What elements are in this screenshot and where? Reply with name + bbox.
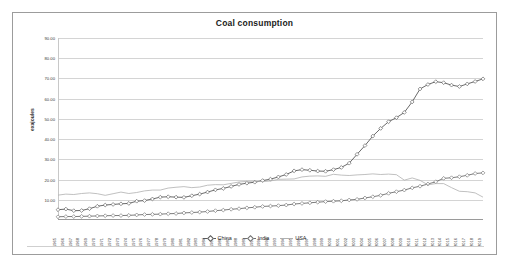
- data-point-marker: [174, 212, 178, 216]
- legend-marker-icon: [243, 236, 256, 241]
- series-layer: [58, 38, 483, 220]
- data-point-marker: [182, 195, 186, 199]
- data-point-marker: [190, 194, 194, 198]
- data-point-marker: [88, 207, 92, 211]
- data-point-marker: [300, 168, 304, 172]
- legend-label: China: [218, 235, 232, 241]
- data-point-marker: [135, 213, 139, 217]
- data-point-marker: [339, 199, 343, 203]
- data-point-marker: [316, 200, 320, 204]
- x-axis-tick-labels: 1965196619671968196919701971197219731974…: [58, 221, 483, 247]
- data-point-marker: [166, 212, 170, 216]
- legend-item-usa[interactable]: USA: [280, 235, 306, 241]
- data-point-marker: [166, 195, 170, 199]
- data-point-marker: [418, 184, 422, 188]
- data-point-marker: [442, 81, 446, 85]
- data-point-marker: [269, 204, 273, 208]
- y-axis-tick-label: 60.00: [45, 96, 55, 101]
- data-point-marker: [103, 203, 107, 207]
- legend-item-china[interactable]: China: [203, 235, 232, 241]
- data-point-marker: [229, 207, 233, 211]
- series-line: [58, 79, 483, 211]
- y-axis-tick-label: 70.00: [45, 76, 55, 81]
- data-point-marker: [103, 214, 107, 218]
- y-axis-tick-label: 80.00: [45, 56, 55, 61]
- data-point-marker: [198, 192, 202, 196]
- data-point-marker: [64, 207, 68, 211]
- legend-marker-icon: [280, 236, 293, 241]
- data-point-marker: [473, 80, 477, 84]
- data-point-marker: [457, 175, 461, 179]
- data-point-marker: [300, 202, 304, 206]
- data-point-marker: [371, 195, 375, 199]
- data-point-marker: [324, 169, 328, 173]
- data-point-marker: [72, 209, 76, 213]
- data-point-marker: [450, 176, 454, 180]
- data-point-marker: [355, 197, 359, 201]
- data-point-marker: [332, 168, 336, 172]
- data-point-marker: [221, 208, 225, 212]
- data-point-marker: [206, 210, 210, 214]
- data-point-marker: [465, 82, 469, 86]
- data-point-marker: [72, 215, 76, 219]
- data-point-marker: [253, 205, 257, 209]
- data-point-marker: [95, 204, 99, 208]
- data-point-marker: [135, 199, 139, 203]
- data-point-marker: [363, 196, 367, 200]
- y-axis-tick-label: 40.00: [45, 137, 55, 142]
- data-point-marker: [237, 183, 241, 187]
- legend-item-india[interactable]: India: [243, 235, 270, 241]
- chart-legend: ChinaIndiaUSA: [13, 235, 496, 241]
- data-point-marker: [284, 173, 288, 177]
- data-point-marker: [214, 188, 218, 192]
- data-point-marker: [214, 209, 218, 213]
- data-point-marker: [426, 83, 430, 87]
- data-point-marker: [119, 202, 123, 206]
- chart-title: Coal consumption: [13, 18, 496, 28]
- data-point-marker: [56, 215, 60, 219]
- y-axis-tick-label: 20.00: [45, 177, 55, 182]
- data-point-marker: [198, 210, 202, 214]
- plot-area: 10.0020.0030.0040.0050.0060.0070.0080.00…: [58, 38, 483, 220]
- legend-label: India: [258, 235, 270, 241]
- data-point-marker: [56, 208, 60, 212]
- y-axis-tick-label: 90.00: [45, 36, 55, 41]
- data-point-marker: [339, 166, 343, 170]
- chart-frame: Coal consumption exajoules 10.0020.0030.…: [12, 12, 497, 255]
- data-point-marker: [481, 77, 485, 81]
- data-point-marker: [80, 209, 84, 213]
- data-point-marker: [379, 193, 383, 197]
- data-point-marker: [481, 171, 485, 175]
- data-point-marker: [308, 201, 312, 205]
- data-point-marker: [127, 202, 131, 206]
- data-point-marker: [465, 173, 469, 177]
- data-point-marker: [111, 214, 115, 218]
- data-point-marker: [95, 214, 99, 218]
- data-point-marker: [292, 202, 296, 206]
- data-point-marker: [450, 83, 454, 87]
- data-point-marker: [245, 206, 249, 210]
- data-point-marker: [308, 168, 312, 172]
- data-point-marker: [221, 187, 225, 191]
- data-point-marker: [261, 205, 265, 209]
- data-point-marker: [276, 175, 280, 179]
- data-point-marker: [158, 212, 162, 216]
- y-axis-tick-label: 10.00: [45, 197, 55, 202]
- legend-label: USA: [295, 235, 306, 241]
- data-point-marker: [174, 195, 178, 199]
- data-point-marker: [434, 180, 438, 184]
- data-point-marker: [143, 213, 147, 217]
- legend-marker-icon: [203, 236, 216, 241]
- data-point-marker: [434, 80, 438, 84]
- data-point-marker: [119, 214, 123, 218]
- data-point-marker: [442, 176, 446, 180]
- data-point-marker: [127, 213, 131, 217]
- y-axis-title: exajoules: [29, 108, 35, 131]
- data-point-marker: [182, 211, 186, 215]
- data-point-marker: [324, 200, 328, 204]
- data-point-marker: [284, 203, 288, 207]
- data-point-marker: [457, 85, 461, 89]
- data-point-marker: [190, 211, 194, 215]
- data-point-marker: [276, 204, 280, 208]
- data-point-marker: [206, 190, 210, 194]
